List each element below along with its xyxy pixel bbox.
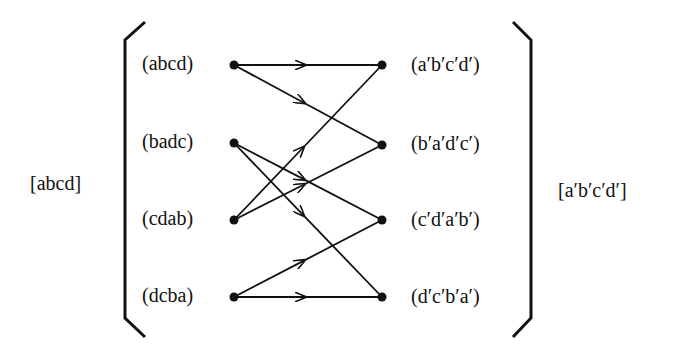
- outer-right-label: [a′b′c′d′]: [558, 180, 627, 200]
- left-node-label: (cdab): [142, 208, 193, 228]
- edge-arrow: [234, 65, 382, 220]
- left-node-label: (badc): [142, 131, 193, 151]
- node-dot: [378, 61, 387, 70]
- right-node-label: (d′c′b′a′): [411, 286, 480, 306]
- left-node-label: (dcba): [142, 285, 193, 305]
- node-dot: [230, 61, 239, 70]
- node-dot: [378, 216, 387, 225]
- edge-arrow: [234, 143, 382, 297]
- node-dot: [230, 293, 239, 302]
- edge-arrow: [234, 220, 382, 297]
- right-node-label: (b′a′d′c′): [411, 133, 480, 153]
- node-dot: [230, 216, 239, 225]
- node-dot: [378, 293, 387, 302]
- right-bracket: [513, 22, 531, 337]
- node-dot: [230, 139, 239, 148]
- right-node-label: (c′d′a′b′): [411, 209, 480, 229]
- outer-left-label: [abcd]: [30, 173, 81, 193]
- edge-arrow: [234, 65, 382, 145]
- node-dot: [378, 141, 387, 150]
- edge-group: [234, 65, 382, 297]
- right-node-label: (a′b′c′d′): [411, 54, 480, 74]
- left-node-label: (abcd): [142, 53, 193, 73]
